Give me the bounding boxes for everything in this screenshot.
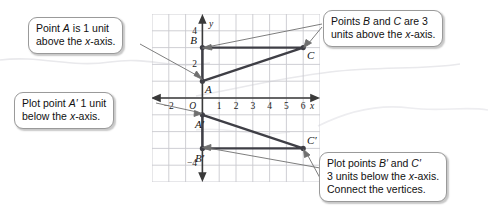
axes (153, 16, 318, 180)
callout-plot-bc-prime: Plot points B′ and C′ 3 units below the … (319, 152, 447, 202)
origin-label: O (189, 101, 196, 111)
x-tick-6: 6 (301, 101, 306, 111)
point-label-c-prime: C′ (307, 134, 317, 146)
callout-point-a-line2: above the x-axis. (36, 35, 115, 48)
italic-a: A (63, 22, 70, 34)
callout-plot-bc-prime-line1: Plot points B′ and C′ (327, 157, 439, 170)
point-label-b-prime: B′ (195, 152, 205, 164)
point-label-a-prime: A′ (194, 118, 205, 130)
point-label-c: C (307, 49, 315, 61)
callout-point-a: Point A is 1 unit above the x-axis. (28, 17, 123, 54)
x-tick-4: 4 (267, 101, 272, 111)
italic-b-prime: B′ (379, 157, 388, 169)
callout-plot-a-prime-line2: below the x-axis. (22, 110, 106, 123)
callout-points-bc-line1: Points B and C are 3 (331, 15, 435, 28)
x-tick-1: 1 (217, 101, 222, 111)
italic-c: C (393, 15, 401, 27)
y-tick-2: 2 (192, 59, 197, 69)
italic-c-prime: C′ (411, 157, 421, 169)
callout-point-a-line1: Point A is 1 unit (36, 22, 115, 35)
callout-plot-a-prime-line1: Plot point A′ 1 unit (22, 97, 106, 110)
point-label-b: B (190, 34, 197, 46)
y-axis-label: y (208, 19, 214, 29)
figure-page: −2 1 2 3 4 5 6 4 2 −4 O x y A B C A′ B′ (0, 0, 488, 214)
point-label-a: A (204, 83, 212, 95)
x-tick-5: 5 (284, 101, 289, 111)
italic-a-prime: A′ (69, 97, 78, 109)
x-axis-label: x (309, 101, 315, 111)
callout-plot-bc-prime-line2: 3 units below the x-axis. (327, 170, 439, 183)
callout-points-bc-line2: units above the x-axis. (331, 28, 435, 41)
callout-plot-bc-prime-line3: Connect the vertices. (327, 183, 439, 196)
callout-points-bc: Points B and C are 3 units above the x-a… (323, 10, 443, 47)
x-tick-3: 3 (250, 101, 255, 111)
x-tick--2: −2 (164, 101, 174, 111)
coordinate-grid: −2 1 2 3 4 5 6 4 2 −4 O x y A B C A′ B′ (152, 14, 320, 182)
callout-plot-a-prime: Plot point A′ 1 unit below the x-axis. (14, 92, 114, 129)
x-tick-2: 2 (234, 101, 239, 111)
